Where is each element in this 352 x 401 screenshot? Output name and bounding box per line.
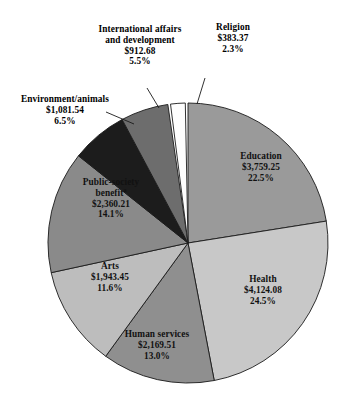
slice-name-public-society-benefit-line1: Public-society	[52, 177, 170, 188]
slice-amount-human-services: $2,169.51	[94, 340, 220, 351]
leader-line-international-affairs	[147, 88, 159, 108]
slice-name-international-affairs-line1: International affairs	[80, 24, 200, 35]
slice-label-education: Education $3,759.25 22.5%	[206, 151, 316, 183]
slice-percent-human-services: 13.0%	[94, 351, 220, 362]
slice-label-environment-animals: Environment/animals $1,081.54 6.5%	[2, 94, 128, 126]
slice-amount-arts: $1,943.45	[56, 272, 164, 283]
slice-label-health: Health $4,124.08 24.5%	[208, 274, 318, 306]
slice-label-religion: Religion $383.37 2.3%	[194, 22, 272, 54]
slice-amount-religion: $383.37	[194, 33, 272, 44]
footnote-marker-a: a	[123, 187, 126, 193]
slice-amount-public-society-benefit: $2,360.21	[52, 199, 170, 210]
slice-percent-environment-animals: 6.5%	[2, 116, 128, 127]
slice-label-human-services: Human services $2,169.51 13.0%	[94, 329, 220, 361]
slice-name-health: Health	[208, 274, 318, 285]
slice-label-international-affairs: International affairs and development $9…	[80, 24, 200, 67]
pie-chart: International affairs and development $9…	[0, 0, 352, 401]
slice-label-arts: Arts $1,943.45 11.6%	[56, 261, 164, 293]
slice-name-education: Education	[206, 151, 316, 162]
slice-name-environment-animals: Environment/animals	[2, 94, 128, 105]
slice-percent-religion: 2.3%	[194, 44, 272, 55]
leader-line-religion	[197, 78, 205, 104]
slice-percent-education: 22.5%	[206, 173, 316, 184]
slice-amount-health: $4,124.08	[208, 285, 318, 296]
slice-amount-environment-animals: $1,081.54	[2, 105, 128, 116]
slice-percent-international-affairs: 5.5%	[80, 56, 200, 67]
slice-name-arts: Arts	[56, 261, 164, 272]
slice-amount-international-affairs: $912.68	[80, 46, 200, 57]
slice-percent-public-society-benefit: 14.1%	[52, 209, 170, 220]
slice-amount-education: $3,759.25	[206, 162, 316, 173]
slice-name-human-services: Human services	[94, 329, 220, 340]
slice-name-public-society-benefit-line2: benefita	[52, 188, 170, 199]
slice-label-public-society-benefit: Public-society benefita $2,360.21 14.1%	[52, 177, 170, 220]
slice-name-international-affairs-line2: and development	[80, 35, 200, 46]
slice-percent-health: 24.5%	[208, 296, 318, 307]
slice-percent-arts: 11.6%	[56, 283, 164, 294]
slice-name-religion: Religion	[194, 22, 272, 33]
